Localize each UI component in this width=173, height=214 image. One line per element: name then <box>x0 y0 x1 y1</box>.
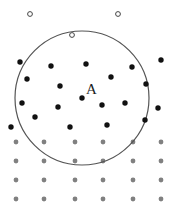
grey-dot <box>159 178 164 183</box>
black-dot <box>19 100 24 105</box>
black-dot <box>158 57 163 62</box>
black-dot <box>57 83 62 88</box>
grey-dot <box>73 159 78 164</box>
grey-dot-grid <box>14 140 164 202</box>
grey-dot <box>73 197 78 202</box>
hollow-dot <box>116 12 121 17</box>
grey-dot <box>101 178 106 183</box>
black-dot <box>129 64 134 69</box>
hollow-dot <box>70 33 75 38</box>
black-dot <box>24 76 29 81</box>
black-dot <box>108 74 113 79</box>
grey-dot <box>42 140 47 145</box>
black-dot <box>142 117 147 122</box>
black-dot <box>48 63 53 68</box>
black-dot <box>8 124 13 129</box>
grey-dot <box>159 197 164 202</box>
grey-dot <box>159 140 164 145</box>
grey-dot <box>73 178 78 183</box>
grey-dot <box>131 159 136 164</box>
hollow-dot-set <box>28 12 121 38</box>
black-dot <box>17 59 22 64</box>
black-dot <box>99 102 104 107</box>
grey-dot <box>159 159 164 164</box>
grey-dot <box>42 178 47 183</box>
grey-dot <box>42 159 47 164</box>
black-dot <box>122 100 127 105</box>
grey-dot <box>101 140 106 145</box>
grey-dot <box>131 197 136 202</box>
grey-dot <box>131 178 136 183</box>
black-dot <box>67 124 72 129</box>
black-dot <box>32 114 37 119</box>
grey-dot <box>101 197 106 202</box>
black-dot <box>79 95 84 100</box>
grey-dot <box>14 140 19 145</box>
grey-dot <box>14 159 19 164</box>
grey-dot <box>14 178 19 183</box>
black-dot <box>55 104 60 109</box>
grey-dot <box>14 197 19 202</box>
grey-dot <box>73 140 78 145</box>
hollow-dot <box>28 12 33 17</box>
black-dot <box>155 105 160 110</box>
black-dot <box>104 122 109 127</box>
center-label-a: A <box>86 81 97 97</box>
grey-dot <box>42 197 47 202</box>
black-dot <box>83 61 88 66</box>
diagram-canvas: A <box>0 0 173 214</box>
black-dot <box>143 81 148 86</box>
